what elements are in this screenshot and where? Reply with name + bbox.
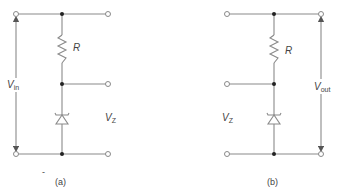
terminal-bottom-right bbox=[106, 152, 111, 157]
junction-node bbox=[60, 82, 64, 86]
vz-label: VZ bbox=[105, 112, 117, 124]
caption-a: (a) bbox=[55, 177, 66, 187]
resistor-label: R bbox=[285, 45, 292, 56]
junction-node bbox=[272, 12, 276, 16]
terminal-bottom-left bbox=[14, 152, 19, 157]
junction-node bbox=[60, 152, 64, 156]
circuit-a: R Vin VZ - (a) bbox=[7, 12, 117, 188]
terminal-top-left bbox=[225, 12, 230, 17]
terminal-middle-left bbox=[225, 82, 230, 87]
vout-label: Vout bbox=[314, 81, 330, 93]
vz-label: VZ bbox=[222, 112, 234, 124]
circuit-b: R VZ Vout (b) bbox=[222, 12, 330, 188]
resistor-symbol bbox=[270, 35, 278, 63]
terminal-middle-right bbox=[106, 82, 111, 87]
caption-b: (b) bbox=[267, 177, 278, 187]
junction-node bbox=[272, 152, 276, 156]
terminal-bottom-left bbox=[225, 152, 230, 157]
resistor-label: R bbox=[73, 42, 80, 53]
vin-label: Vin bbox=[7, 79, 19, 91]
stray-mark: - bbox=[42, 167, 45, 177]
terminal-top-left bbox=[14, 12, 19, 17]
terminal-top-right bbox=[319, 12, 324, 17]
zener-circuit-figure: R Vin VZ - (a) R VZ Vout (b) bbox=[0, 0, 339, 195]
resistor-symbol bbox=[58, 35, 66, 63]
junction-node bbox=[272, 82, 276, 86]
zener-diode-symbol bbox=[55, 113, 69, 124]
junction-node bbox=[60, 12, 64, 16]
terminal-bottom-right bbox=[319, 152, 324, 157]
zener-diode-symbol bbox=[267, 113, 281, 124]
terminal-top-right bbox=[106, 12, 111, 17]
